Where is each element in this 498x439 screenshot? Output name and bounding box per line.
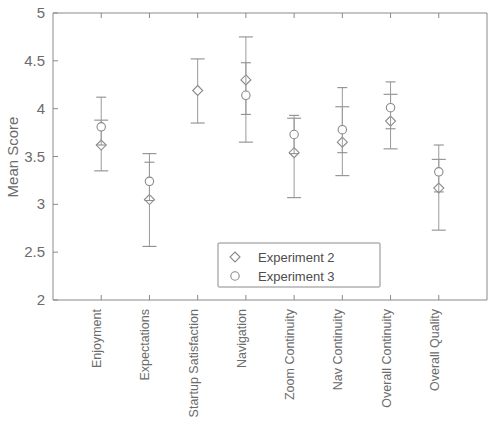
x-axis-category-label: Expectations bbox=[138, 309, 152, 381]
legend-label: Experiment 3 bbox=[258, 269, 335, 284]
y-axis-tick-label: 3 bbox=[37, 195, 45, 212]
data-point-circle bbox=[242, 91, 250, 99]
mean-score-error-bar-chart: 22.533.544.55 EnjoymentExpectationsStart… bbox=[0, 0, 498, 439]
series-1 bbox=[94, 37, 446, 247]
chart-legend: Experiment 2Experiment 3 bbox=[218, 243, 380, 287]
x-axis-category-label: Navigation bbox=[235, 309, 249, 368]
y-axis-title: Mean Score bbox=[4, 117, 21, 198]
y-axis-tick-label: 4 bbox=[37, 100, 45, 117]
x-axis-category-label: Zoom Continuity bbox=[283, 308, 297, 400]
x-axis-category-label: Startup Satisfaction bbox=[187, 309, 201, 417]
y-axis-tick-group bbox=[53, 13, 58, 300]
legend-label: Experiment 2 bbox=[258, 250, 335, 265]
x-axis-category-label-group: EnjoymentExpectationsStartup Satisfactio… bbox=[90, 308, 442, 417]
y-axis-tick-label: 2 bbox=[37, 291, 45, 308]
y-axis-tick-label: 2.5 bbox=[24, 243, 45, 260]
data-point-circle bbox=[338, 126, 346, 134]
y-axis-tick-label-group: 22.533.544.55 bbox=[24, 4, 45, 308]
y-axis-tick-label: 3.5 bbox=[24, 148, 45, 165]
x-axis-category-label: Overall Continuity bbox=[380, 308, 394, 407]
data-point-circle bbox=[145, 177, 153, 185]
data-series-layer bbox=[94, 37, 446, 247]
data-point-circle bbox=[97, 123, 105, 131]
y-axis-tick-label: 5 bbox=[37, 4, 45, 21]
data-point-diamond bbox=[193, 85, 203, 95]
series-2 bbox=[96, 63, 444, 201]
legend-marker-circle bbox=[231, 272, 239, 280]
y-axis-tick-label: 4.5 bbox=[24, 52, 45, 69]
x-axis-category-label: Nav Continuity bbox=[331, 308, 345, 390]
chart-figure: 22.533.544.55 EnjoymentExpectationsStart… bbox=[0, 0, 498, 439]
x-axis-category-label: Overall Quality bbox=[428, 308, 442, 391]
data-point-circle bbox=[386, 104, 394, 112]
data-point-circle bbox=[435, 168, 443, 176]
data-point-circle bbox=[290, 130, 298, 138]
x-axis-category-label: Enjoyment bbox=[90, 308, 104, 368]
